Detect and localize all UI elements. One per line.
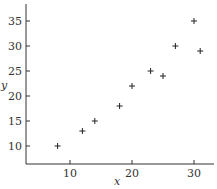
data-point-marker — [129, 83, 135, 89]
data-point-marker — [148, 68, 154, 74]
y-tick-label: 20 — [8, 90, 22, 103]
scatter-plot: 102030101520253035 x y — [0, 0, 217, 189]
y-tick-label: 25 — [8, 65, 22, 78]
axes: 102030101520253035 — [8, 4, 214, 180]
y-tick-label: 10 — [8, 140, 22, 153]
y-axis-label: y — [0, 79, 8, 92]
data-point-marker — [172, 43, 178, 49]
data-points — [55, 18, 204, 149]
data-point-marker — [92, 118, 98, 124]
y-tick-label: 35 — [8, 15, 22, 28]
data-point-marker — [55, 143, 61, 149]
x-axis-label: x — [114, 175, 121, 188]
x-tick-label: 20 — [125, 167, 139, 180]
data-point-marker — [117, 103, 123, 109]
data-point-marker — [197, 48, 203, 54]
data-point-marker — [160, 73, 166, 79]
data-point-marker — [79, 128, 85, 134]
y-tick-label: 15 — [8, 115, 22, 128]
x-tick-label: 10 — [63, 167, 77, 180]
y-tick-label: 30 — [8, 40, 22, 53]
x-tick-label: 30 — [187, 167, 201, 180]
data-point-marker — [191, 18, 197, 24]
